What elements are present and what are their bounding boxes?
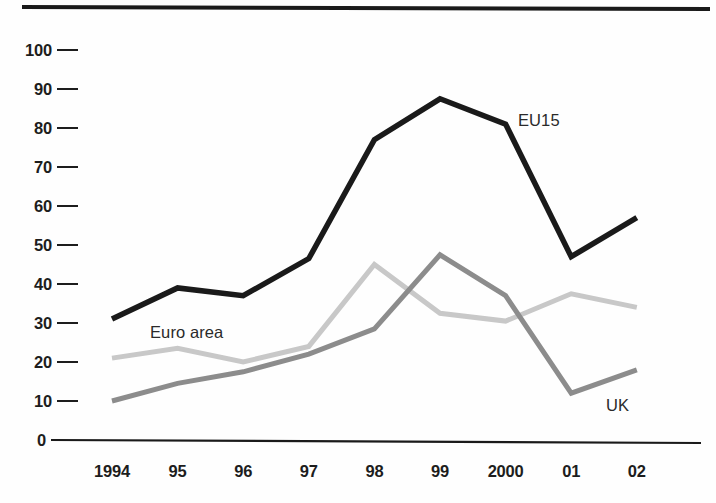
x-tick-label: 96: [234, 462, 252, 480]
top-rule: [22, 7, 710, 9]
x-tick-label: 01: [562, 462, 580, 480]
y-tick-label: 90: [34, 80, 52, 98]
y-tick-label: 10: [34, 392, 52, 410]
x-tick-label: 95: [169, 462, 187, 480]
x-tick-label: 02: [628, 462, 646, 480]
y-tick-label: 20: [34, 353, 52, 371]
y-tick-label: 100: [25, 41, 52, 59]
series-lines-group: [112, 99, 637, 401]
x-tick-label: 97: [300, 462, 318, 480]
y-tick-label: 50: [34, 236, 52, 254]
y-tick-label: 70: [34, 158, 52, 176]
chart-figure: 0102030405060708090100 19949596979899200…: [0, 0, 716, 503]
y-tick-label: 80: [34, 119, 52, 137]
y-tick-label: 0: [37, 431, 46, 449]
y-tick-label: 40: [34, 275, 52, 293]
series-annotation-euro-area: Euro area: [150, 323, 224, 341]
x-tick-label: 2000: [488, 462, 524, 480]
series-line-euro-area: [112, 265, 637, 363]
x-axis-tick-labels: 1994959697989920000102: [94, 462, 646, 480]
x-tick-label: 1994: [94, 462, 131, 480]
series-annotation-uk: UK: [606, 396, 629, 414]
x-tick-label: 98: [365, 462, 383, 480]
y-tick-label: 30: [34, 314, 52, 332]
x-tick-label: 99: [431, 462, 449, 480]
series-annotation-eu15: EU15: [518, 111, 560, 129]
line-chart: 0102030405060708090100 19949596979899200…: [0, 0, 716, 503]
y-tick-label: 60: [34, 197, 52, 215]
series-line-eu15: [112, 99, 637, 319]
y-axis-tick-labels: 0102030405060708090100: [25, 41, 52, 449]
y-axis-ticks: [57, 50, 78, 401]
x-axis-baseline: [51, 440, 701, 443]
